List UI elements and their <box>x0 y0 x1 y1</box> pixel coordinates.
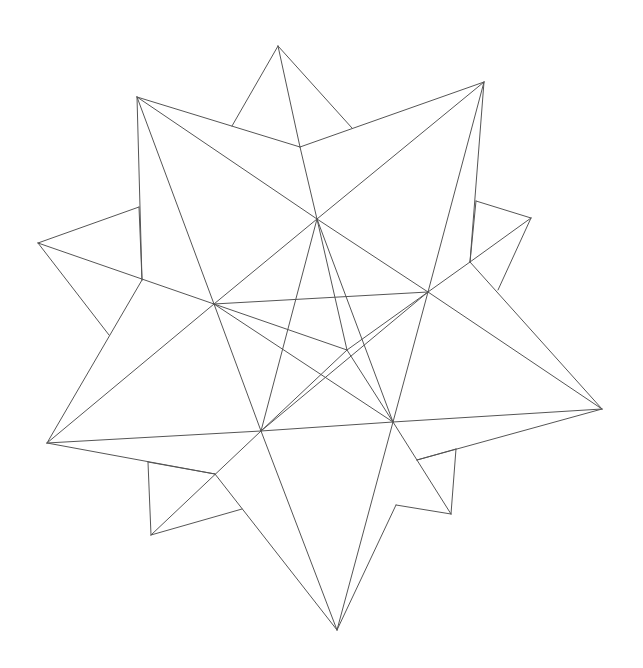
edge-line <box>214 304 393 422</box>
edge-line <box>337 422 393 630</box>
edge-line <box>148 462 215 474</box>
edge-line <box>317 219 347 350</box>
edge-line <box>470 218 531 262</box>
edge-line <box>38 243 109 335</box>
edge-line <box>214 304 347 350</box>
edge-line <box>428 292 602 409</box>
edge-line <box>214 219 317 304</box>
edge-line <box>476 201 531 218</box>
edge-line <box>417 449 456 460</box>
edge-line <box>261 422 393 431</box>
edge-line <box>470 201 476 262</box>
edge-line <box>232 46 278 126</box>
edge-line <box>278 46 300 147</box>
edge-line <box>38 207 139 243</box>
edge-line <box>214 304 261 431</box>
edge-line <box>300 147 317 219</box>
edge-line <box>214 292 428 304</box>
edge-line <box>300 82 484 147</box>
edge-line <box>47 280 142 443</box>
edge-line <box>47 431 261 443</box>
edge-line <box>261 292 428 431</box>
edge-line <box>137 97 300 147</box>
edge-line <box>337 505 396 630</box>
edge-line <box>317 219 393 422</box>
edge-line <box>261 350 347 431</box>
polyhedron-wireframe <box>0 0 643 668</box>
edge-line <box>393 422 451 514</box>
edge-line <box>261 219 317 431</box>
edge-line <box>347 292 428 350</box>
edge-line <box>317 219 428 292</box>
edge-group <box>38 46 602 630</box>
edge-line <box>38 243 214 304</box>
edge-line <box>47 304 214 443</box>
edge-line <box>498 218 531 290</box>
edge-line <box>261 431 337 630</box>
edge-line <box>148 462 151 535</box>
edge-line <box>137 97 317 219</box>
edge-line <box>470 262 602 409</box>
edge-line <box>396 505 451 514</box>
edge-line <box>278 46 352 128</box>
edge-line <box>137 97 214 304</box>
edge-line <box>317 82 484 219</box>
edge-line <box>215 474 337 630</box>
edge-line <box>393 292 428 422</box>
edge-line <box>393 409 602 422</box>
edge-line <box>451 449 456 514</box>
